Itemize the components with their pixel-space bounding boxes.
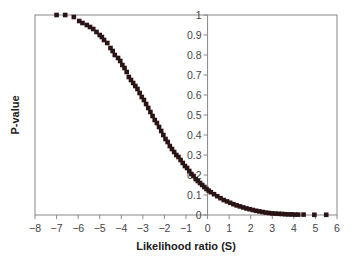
x-tick-label: 1 <box>226 222 232 234</box>
data-point <box>301 212 306 217</box>
x-tick-label: −8 <box>29 222 41 234</box>
y-tick-label: 0.3 <box>187 149 202 161</box>
x-tick-label: −4 <box>115 222 127 234</box>
x-tick-label: 5 <box>313 222 319 234</box>
x-tick-label: −3 <box>137 222 149 234</box>
y-tick-label: 0.1 <box>187 189 202 201</box>
y-tick-label: 0.8 <box>187 49 202 61</box>
x-tick-label: 0 <box>205 222 211 234</box>
data-point <box>118 59 123 64</box>
y-tick-label: 0.7 <box>187 69 202 81</box>
data-point <box>110 49 115 54</box>
x-tick-label: 6 <box>334 222 340 234</box>
data-point <box>124 70 129 75</box>
data-point <box>312 213 317 218</box>
data-point <box>142 98 147 103</box>
data-point <box>155 121 160 126</box>
data-point <box>137 91 142 96</box>
data-point <box>54 13 59 18</box>
data-point <box>144 102 149 107</box>
x-axis: −8−7−6−5−4−3−2−10123456 <box>29 215 340 234</box>
data-point <box>150 114 155 119</box>
y-axis-title: P-value <box>9 95 21 134</box>
x-tick-label: −7 <box>51 222 63 234</box>
data-point <box>146 106 151 111</box>
data-point <box>105 41 110 46</box>
data-point <box>161 133 166 138</box>
data-point <box>165 140 170 145</box>
y-tick-label: 0.6 <box>187 89 202 101</box>
x-tick-label: −1 <box>180 222 192 234</box>
data-point <box>63 13 68 18</box>
data-point <box>80 21 85 26</box>
x-tick-label: 3 <box>269 222 275 234</box>
y-tick-label: 0.9 <box>187 29 202 41</box>
y-tick-label: 0.5 <box>187 109 202 121</box>
x-tick-label: 2 <box>248 222 254 234</box>
y-tick-label: 0 <box>196 209 202 221</box>
y-tick-label: 0.4 <box>187 129 202 141</box>
data-point <box>157 125 162 130</box>
x-axis-title: Likelihood ratio (S) <box>136 240 236 252</box>
data-point <box>324 213 329 218</box>
x-tick-label: −2 <box>158 222 170 234</box>
x-tick-label: 4 <box>291 222 297 234</box>
x-tick-label: −5 <box>94 222 106 234</box>
data-point <box>122 66 127 71</box>
y-tick-label: 1 <box>196 9 202 21</box>
data-point <box>135 87 140 92</box>
data-point <box>72 15 77 20</box>
data-point <box>296 212 301 217</box>
x-tick-label: −6 <box>72 222 84 234</box>
data-point <box>159 129 164 134</box>
p-value-scatter-chart: 00.10.20.30.40.50.60.70.80.91 −8−7−6−5−4… <box>0 0 352 265</box>
data-point <box>148 110 153 115</box>
